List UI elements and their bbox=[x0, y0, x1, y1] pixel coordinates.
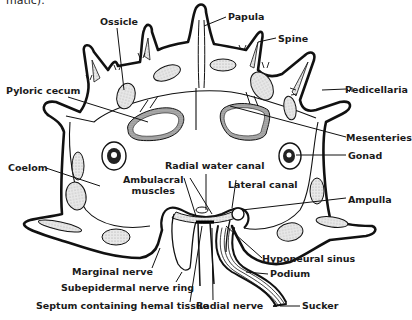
label-marginal-nerve: Marginal nerve bbox=[72, 266, 153, 277]
label-podium: Podium bbox=[270, 268, 310, 279]
label-ossicle: Ossicle bbox=[100, 16, 138, 27]
label-coelom: Coelom bbox=[8, 162, 48, 173]
label-papula: Papula bbox=[228, 11, 264, 22]
label-spine: Spine bbox=[278, 33, 308, 44]
label-pedicellaria: Pedicellaria bbox=[345, 84, 408, 95]
label-septum-hemal-tissue: Septum containing hemal tissue bbox=[36, 300, 209, 311]
label-sucker: Sucker bbox=[302, 300, 338, 311]
label-ampulla: Ampulla bbox=[348, 194, 392, 205]
label-subepidermal-nerve-ring: Subepidermal nerve ring bbox=[61, 282, 194, 293]
label-radial-water-canal: Radial water canal bbox=[165, 160, 264, 171]
label-radial-nerve: Radial nerve bbox=[196, 300, 263, 311]
label-gonad: Gonad bbox=[348, 150, 382, 161]
label-lateral-canal: Lateral canal bbox=[228, 179, 298, 190]
papula bbox=[198, 20, 205, 88]
label-ambulacral-muscles: Ambulacral muscles bbox=[123, 174, 183, 196]
label-mesenteries: Mesenteries bbox=[346, 132, 412, 143]
label-pyloric-cecum: Pyloric cecum bbox=[6, 85, 80, 96]
label-hyponeural-sinus: Hyponeural sinus bbox=[262, 253, 355, 264]
